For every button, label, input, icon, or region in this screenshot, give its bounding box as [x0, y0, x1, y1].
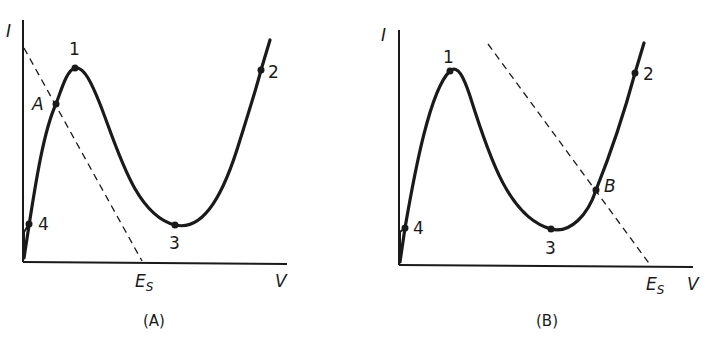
label-3: 3 — [545, 238, 556, 258]
figure-canvas: I 1 A 4 3 2 ES V (A) I 1 4 3 B 2 ES V (B… — [0, 0, 706, 339]
label-2: 2 — [268, 62, 279, 82]
point-b — [593, 187, 600, 194]
point-1 — [72, 65, 79, 72]
y-axis-label: I — [6, 21, 11, 41]
caption-a: (A) — [143, 312, 165, 330]
x-axis — [23, 262, 287, 264]
y-axis-label: I — [381, 25, 386, 45]
caption-b: (B) — [536, 312, 558, 330]
panel-a: I 1 A 4 3 2 ES V (A) — [6, 20, 288, 330]
panel-b: I 1 4 3 B 2 ES V (B) — [381, 25, 700, 330]
point-2 — [632, 70, 639, 77]
point-4 — [26, 221, 33, 228]
point-3 — [548, 226, 555, 233]
point-3 — [172, 222, 179, 229]
x-axis — [399, 265, 693, 267]
x-axis-label: V — [275, 271, 288, 291]
iv-curve — [400, 43, 644, 262]
label-2: 2 — [643, 64, 654, 84]
load-line — [488, 44, 651, 266]
label-1: 1 — [69, 39, 80, 59]
label-b: B — [604, 176, 616, 196]
point-1 — [447, 68, 454, 75]
label-4: 4 — [413, 218, 424, 238]
label-1: 1 — [443, 47, 454, 67]
iv-curve — [24, 40, 270, 258]
label-3: 3 — [169, 233, 180, 253]
x-axis-label: V — [687, 274, 700, 294]
point-4 — [402, 225, 409, 232]
point-2 — [258, 67, 265, 74]
label-4: 4 — [38, 214, 49, 234]
point-a — [53, 101, 60, 108]
es-label: ES — [646, 274, 665, 297]
es-label: ES — [135, 271, 154, 294]
label-a: A — [31, 94, 44, 114]
